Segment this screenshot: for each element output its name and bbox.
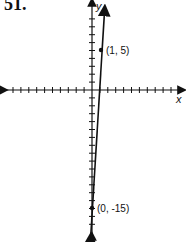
- point-1-5: [99, 48, 103, 52]
- x-axis-label: x: [175, 93, 182, 105]
- point-label-0-neg15: (0, -15): [97, 203, 129, 214]
- point-0-neg15: [90, 206, 94, 210]
- y-axis-label: y: [95, 0, 103, 12]
- coordinate-plane: x y (1, 5) (0, -15): [0, 0, 186, 242]
- point-label-1-5: (1, 5): [106, 45, 129, 56]
- graph-figure: 51. x y (1, 5) (0, -15): [0, 0, 186, 242]
